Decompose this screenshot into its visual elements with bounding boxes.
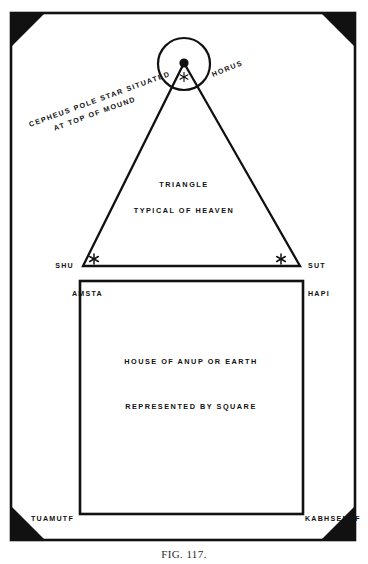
pole-star-dot	[179, 58, 188, 67]
figure-caption: FIG. 117.	[0, 548, 368, 560]
sut-label: SUT	[308, 262, 326, 270]
represented-by-square-label: REPRESENTED BY SQUARE	[125, 402, 257, 411]
tuamutf-label: TUAMUTF	[31, 515, 74, 523]
amsta-label: AMSTA	[72, 290, 103, 298]
hapi-label: HAPI	[308, 290, 330, 298]
cosmological-diagram: CEPHEUS POLE STAR SITUATED AT TOP OF MOU…	[0, 0, 368, 564]
house-of-anup-label: HOUSE OF ANUP OR EARTH	[124, 357, 258, 366]
kabhsenuf-label: KABHSENUF	[305, 515, 361, 523]
typical-of-heaven-label: TYPICAL OF HEAVEN	[134, 206, 235, 215]
shu-label: SHU	[55, 262, 74, 270]
triangle-label: TRIANGLE	[159, 180, 208, 189]
figure-page: CEPHEUS POLE STAR SITUATED AT TOP OF MOU…	[0, 0, 368, 564]
